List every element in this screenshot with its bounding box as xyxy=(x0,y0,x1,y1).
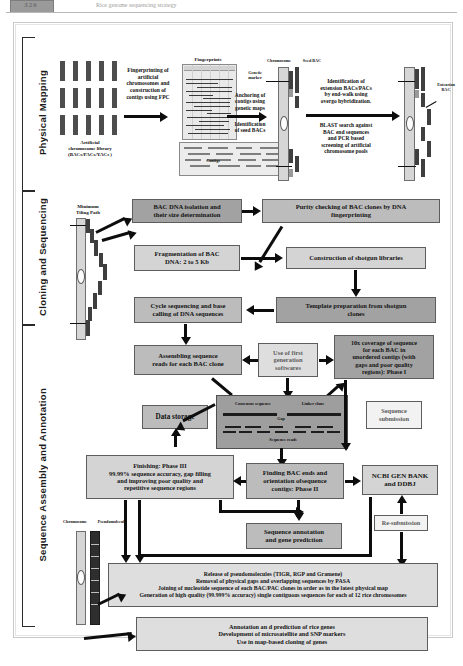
step-anchoring: Anchoring of contigs using genetic maps xyxy=(226,92,274,111)
arrow-annotation-elbow xyxy=(138,554,370,557)
box-sequence-submission[interactable]: Sequence submission xyxy=(366,401,422,429)
bac-bar xyxy=(289,169,293,177)
box-resubmission[interactable]: Re-submission xyxy=(374,515,428,531)
arrow-cycle-to-assembling xyxy=(184,324,187,338)
figure-frame: Physical Mapping Cloning and Sequencing … xyxy=(13,22,453,638)
arrow-isolation-to-purity-head xyxy=(253,206,261,216)
page-header: 326 Rice genome sequencing strategy xyxy=(0,0,463,14)
bac-bar xyxy=(289,89,293,97)
arrow-finding-elbow-up xyxy=(219,500,222,512)
box-shotgun-libraries[interactable]: Construction of shotgun libraries xyxy=(286,247,426,269)
box-coverage-phase1[interactable]: 10x coverage of sequence for each BAC in… xyxy=(334,335,434,379)
section-label-assembly-annotation: Sequence Assembly and Annotation xyxy=(37,388,48,562)
tile-bac xyxy=(103,264,107,280)
caption-chromosome-2: Chromosome xyxy=(58,520,92,525)
pseudomolecule-bar xyxy=(90,531,100,625)
arrow-finding-to-ncbi xyxy=(345,480,353,483)
arrow-template-to-cycle-head xyxy=(246,305,254,315)
header-rule xyxy=(6,12,457,13)
caption-sequence-reads: Sequence reads xyxy=(259,438,307,443)
caption-linker-clone: Linker clone xyxy=(291,402,335,407)
caption-minimum-tiling-path: Minimum Tiling Path xyxy=(66,204,110,216)
step-identification-seed: Identification of seed BACs xyxy=(226,121,274,134)
arrow-finding-to-finishing-head xyxy=(233,476,241,486)
box-cycle-sequencing[interactable]: Cycle sequencing and base calling of DNA… xyxy=(134,297,242,323)
section-physical-mapping: Physical Mapping xyxy=(22,37,52,189)
section-cloning-sequencing: Cloning and Sequencing xyxy=(22,191,52,323)
box-fragmentation[interactable]: Fragmentation of BAC DNA: 2 to 5 Kb xyxy=(134,245,240,271)
bac-bar xyxy=(421,159,425,177)
bac-bar xyxy=(295,67,299,93)
page-number: 326 xyxy=(11,0,51,11)
box-template-prep[interactable]: Template preparation from shotgun clones xyxy=(276,297,436,323)
step-extension-id: Identification of extension BACs/PACs by… xyxy=(306,78,386,104)
arrow-software-to-seqpanel xyxy=(286,378,289,392)
arrow-shotgun-to-template-head xyxy=(351,289,361,297)
arrow-finishing-to-release-1-head xyxy=(121,555,131,563)
box-bac-dna-isolation[interactable]: BAC DNA isolation and their size determi… xyxy=(132,199,242,223)
tile-bac xyxy=(93,293,97,309)
box-sequence-annotation[interactable]: Sequence annotation and gene prediction xyxy=(246,523,342,549)
box-assembling-reads[interactable]: Assembling sequence reads for each BAC c… xyxy=(134,345,242,375)
centromere xyxy=(280,116,288,131)
arrow-resubmission-to-ncbi-head xyxy=(397,495,407,503)
section-label-physical-mapping: Physical Mapping xyxy=(37,70,48,155)
genetic-marker-line-1 xyxy=(266,81,290,82)
caption-consensus-sequence: Consensus sequence xyxy=(227,402,279,407)
chromosome-ideogram-1 xyxy=(278,67,289,181)
centromere xyxy=(77,269,85,284)
running-title: Rice genome sequencing strategy xyxy=(96,0,176,11)
bac-bar xyxy=(289,149,293,163)
tile-bac xyxy=(94,240,98,256)
caption-pseudomolecule: Pseudomolecule xyxy=(92,520,132,525)
arrow-annotation-down-head xyxy=(294,513,304,521)
tile-bac xyxy=(86,320,90,336)
section-label-cloning-sequencing: Cloning and Sequencing xyxy=(37,198,48,316)
arrow-release-stem xyxy=(138,500,141,556)
extension-bac-bar xyxy=(427,109,431,125)
section-label-wrap: Physical Mapping xyxy=(32,37,52,189)
section-label-wrap: Sequence Assembly and Annotation xyxy=(32,325,52,625)
caption-extension-bac: Extension BAC xyxy=(432,83,460,93)
consensus-sequence-bar-2 xyxy=(287,413,341,416)
caption-genetic-marker: Genetic marker xyxy=(242,71,268,81)
centromere xyxy=(406,116,414,131)
artificial-chromosome-library xyxy=(60,61,118,137)
box-release-pseudomolecules[interactable]: Release of pseudomolecules (TIGR, RGP an… xyxy=(108,563,438,607)
box-finding-bac-ends[interactable]: Finding BAC ends and orientation ofseque… xyxy=(246,463,344,499)
chromosome-ideogram-3 xyxy=(76,531,86,625)
arrow-shotgun-to-template xyxy=(354,270,357,290)
bac-bar xyxy=(427,141,431,157)
chromosome-ideogram-2 xyxy=(404,67,415,181)
arrow-anchoring xyxy=(227,115,259,118)
box-applications[interactable]: Annotation an d prediction of rice genes… xyxy=(136,617,428,651)
arrow-cycle-to-assembling-head xyxy=(181,337,191,345)
arrow-software-to-assembling-head xyxy=(242,355,250,365)
arrow-extension-head xyxy=(392,111,400,121)
arrow-software-to-coverage-head xyxy=(326,355,334,365)
section-label-wrap: Cloning and Sequencing xyxy=(32,191,52,323)
bac-bar xyxy=(421,67,425,91)
arrow-chromosome-to-applications-head xyxy=(127,631,136,642)
caption-fingerprints: Fingerprints xyxy=(180,57,236,63)
caption-gap: Gap xyxy=(271,417,291,422)
figure-page: 326 Rice genome sequencing strategy Phys… xyxy=(0,0,463,666)
box-first-gen-software[interactable]: Use of first generation softwares xyxy=(258,343,318,377)
arrow-extension xyxy=(306,114,392,117)
step-fingerprinting: Fingerprinting of artificial chromosomes… xyxy=(120,67,176,101)
consensus-sequence-panel: Consensus sequence Linker clone Gap Sequ… xyxy=(216,395,348,449)
arrow-finishing-to-datastorage-head xyxy=(171,428,181,436)
centromere xyxy=(77,570,85,585)
caption-chromosome-1: Chromosome xyxy=(262,59,296,64)
step-blast-search: BLAST search against BAC end sequences a… xyxy=(306,122,386,155)
box-ncbi-genbank[interactable]: NCBI GEN BANK and DDBJ xyxy=(362,465,438,495)
genetic-marker-line-3 xyxy=(398,81,416,82)
box-purity-checking[interactable]: Purity checking of BAC clones by DNA fin… xyxy=(262,199,440,223)
arrow-finding-to-ncbi-head xyxy=(353,476,361,486)
caption-seed-bac: Seed BAC xyxy=(298,59,326,64)
chromosome-tiling-path xyxy=(76,218,86,340)
box-finishing-phase3[interactable]: Finishing: Phase III 99.99% sequence acc… xyxy=(86,455,234,499)
arrow-template-to-cycle xyxy=(254,309,274,312)
bac-bar xyxy=(421,93,425,107)
caption-contig: Contigs xyxy=(198,159,228,164)
